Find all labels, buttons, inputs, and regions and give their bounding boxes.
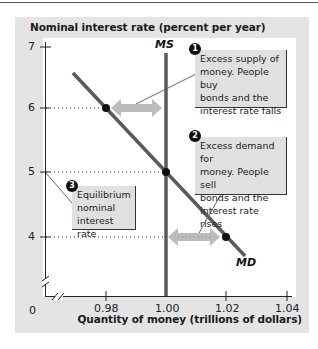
excess-supply-arrow: [111, 99, 162, 117]
callout-2-line: Excess demand for: [200, 139, 282, 165]
callout-3-line: Equilibrium: [77, 188, 131, 201]
callout-excess-supply: Excess supply of money. People buy bonds…: [195, 50, 287, 108]
callout-3-line: nominal: [77, 201, 131, 214]
badge-3: 3: [66, 180, 78, 192]
point-rate-6: [102, 104, 110, 112]
point-rate-4: [222, 233, 230, 241]
ms-label: MS: [155, 38, 174, 51]
point-equilibrium: [162, 168, 170, 176]
callout-excess-demand: Excess demand for money. People sell bon…: [195, 137, 287, 195]
y-tick-4: 4: [28, 230, 35, 243]
excess-demand-arrow: [168, 228, 220, 246]
callout-1-line: Excess supply of: [200, 52, 282, 65]
callout-2-line: bonds and the: [200, 191, 282, 204]
callout-2-line: interest rate rises: [200, 204, 282, 230]
y-tick-6: 6: [28, 101, 35, 114]
callout-1-line: interest rate falls: [200, 104, 282, 117]
y-tick-5: 5: [28, 165, 35, 178]
callout-2-line: money. People sell: [200, 165, 282, 191]
callout-equilibrium: Equilibrium nominal interest rate: [72, 186, 136, 230]
md-label: MD: [236, 256, 256, 269]
callout-3-line: interest rate: [77, 214, 131, 240]
callout-1-line: bonds and the: [200, 91, 282, 104]
badge-2: 2: [189, 130, 201, 142]
callout-1-line: money. People buy: [200, 65, 282, 91]
x-axis-title: Quantity of money (trillions of dollars): [78, 313, 302, 325]
badge-1: 1: [189, 43, 201, 55]
y-tick-7: 7: [28, 40, 35, 53]
origin-label: 0: [29, 304, 36, 317]
